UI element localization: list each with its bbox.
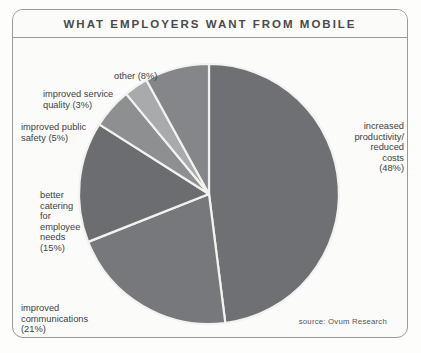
chart-title-bar: WHAT EMPLOYERS WANT FROM MOBILE bbox=[13, 10, 407, 38]
chart-frame: WHAT EMPLOYERS WANT FROM MOBILE other (8… bbox=[12, 9, 408, 338]
pie-chart bbox=[13, 38, 407, 337]
chart-plot-area: other (8%) improved service quality (3%)… bbox=[13, 38, 407, 337]
slice-label-better-catering: better catering for employee needs (15%) bbox=[40, 190, 80, 254]
infographic-canvas: WHAT EMPLOYERS WANT FROM MOBILE other (8… bbox=[0, 0, 421, 353]
slice-label-improved-communications: improved communications (21%) bbox=[21, 303, 88, 335]
slice-label-improved-service-quality: improved service quality (3%) bbox=[43, 89, 113, 110]
slice-label-increased-productivity: increased productivity/ reduced costs (4… bbox=[330, 121, 404, 174]
slice-label-improved-public-safety: improved public safety (5%) bbox=[21, 122, 86, 143]
slice-label-other: other (8%) bbox=[114, 71, 157, 82]
page-title: WHAT EMPLOYERS WANT FROM MOBILE bbox=[63, 18, 356, 30]
source-attribution: source: Ovum Research bbox=[299, 317, 387, 326]
pie-slice bbox=[209, 64, 339, 323]
